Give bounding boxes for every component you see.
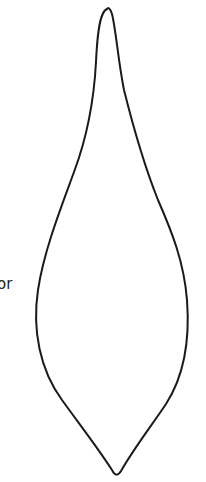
- drawing-canvas: or: [0, 0, 206, 482]
- teardrop-shape-outline: [0, 0, 206, 482]
